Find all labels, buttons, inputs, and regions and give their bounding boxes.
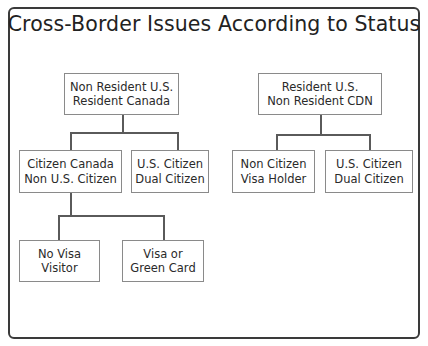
node-line: Visitor (41, 261, 77, 276)
node-line: U.S. Citizen (137, 157, 203, 172)
node-us-citizen-dual-left: U.S. Citizen Dual Citizen (131, 150, 209, 193)
node-citizen-canada: Citizen Canada Non U.S. Citizen (19, 150, 122, 193)
connector (369, 134, 371, 150)
connector (122, 115, 124, 133)
connector (58, 215, 60, 240)
node-visa-green-card: Visa or Green Card (122, 240, 204, 282)
node-line: No Visa (38, 247, 81, 262)
connector (276, 134, 370, 136)
connector (70, 132, 72, 150)
node-resident-us: Resident U.S. Non Resident CDN (258, 73, 382, 115)
node-line: Citizen Canada (27, 157, 114, 172)
connector (70, 193, 72, 216)
node-non-citizen-visa-holder: Non Citizen Visa Holder (232, 150, 315, 193)
connector (58, 215, 164, 217)
connector (70, 132, 178, 134)
node-no-visa-visitor: No Visa Visitor (19, 240, 100, 282)
node-line: Visa or (143, 247, 182, 262)
node-line: Non Citizen (241, 157, 307, 172)
node-line: Dual Citizen (135, 172, 204, 187)
connector (276, 134, 278, 150)
node-line: Resident U.S. (282, 80, 359, 95)
node-us-citizen-dual-right: U.S. Citizen Dual Citizen (325, 150, 413, 193)
node-line: Non U.S. Citizen (24, 172, 117, 187)
node-line: Non Resident U.S. (70, 80, 173, 95)
node-line: Dual Citizen (334, 172, 403, 187)
node-line: U.S. Citizen (336, 157, 402, 172)
connector (163, 215, 165, 240)
node-non-resident-us: Non Resident U.S. Resident Canada (64, 73, 179, 115)
node-line: Visa Holder (241, 172, 307, 187)
connector (177, 132, 179, 150)
diagram-title: Cross-Border Issues According to Status (0, 12, 428, 36)
node-line: Resident Canada (73, 94, 170, 109)
node-line: Non Resident CDN (267, 94, 373, 109)
connector (320, 115, 322, 135)
node-line: Green Card (130, 261, 195, 276)
